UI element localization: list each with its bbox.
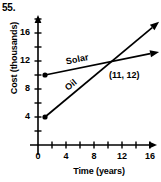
y-tick-label: 16: [14, 28, 30, 37]
graph-figure: 55. Cost (thousands) Time (years) 481216…: [0, 0, 161, 182]
x-tick-label: 16: [142, 152, 158, 161]
x-tick-label: 8: [86, 152, 102, 161]
y-tick-label: 4: [14, 112, 30, 121]
x-tick-label: 4: [58, 152, 74, 161]
series-layer: [42, 22, 159, 120]
x-tick-label: 12: [114, 152, 130, 161]
y-tick-label: 12: [14, 56, 30, 65]
x-tick-label: 0: [30, 152, 46, 161]
series-start-dot-oil: [42, 114, 47, 119]
intersection-point-label: (11, 12): [109, 70, 140, 80]
series-start-dot-solar: [42, 72, 47, 77]
y-tick-label: 8: [14, 84, 30, 93]
series-arrow-solar: [150, 50, 160, 57]
